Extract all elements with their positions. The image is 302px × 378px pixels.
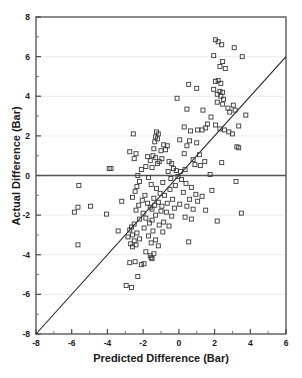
y-tick-label: -6 bbox=[16, 289, 30, 299]
x-tick-label: 4 bbox=[242, 338, 258, 348]
y-tick-label: -4 bbox=[16, 250, 30, 260]
y-tick-label: 4 bbox=[16, 91, 30, 101]
y-tick-label: 0 bbox=[16, 171, 30, 181]
x-tick-label: -6 bbox=[64, 338, 80, 348]
x-tick-label: -8 bbox=[28, 338, 44, 348]
x-tick-label: -4 bbox=[99, 338, 115, 348]
x-tick-label: 2 bbox=[207, 338, 223, 348]
plot-canvas bbox=[0, 0, 302, 378]
data-points bbox=[72, 38, 247, 290]
scatter-plot-figure: Actual Difference (Bar) Predicted Differ… bbox=[0, 0, 302, 378]
x-tick-label: 0 bbox=[171, 338, 187, 348]
y-tick-label: 6 bbox=[16, 52, 30, 62]
x-tick-label: 6 bbox=[278, 338, 294, 348]
x-tick-label: -2 bbox=[135, 338, 151, 348]
y-tick-label: 2 bbox=[16, 131, 30, 141]
y-tick-label: -2 bbox=[16, 210, 30, 220]
y-tick-label: 8 bbox=[16, 12, 30, 22]
